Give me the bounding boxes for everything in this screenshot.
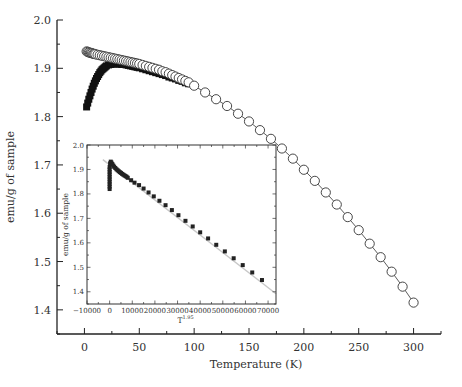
inset-point [214,243,218,247]
inset-chart: 1.41.51.61.71.81.92.0−100000100002000030… [61,142,279,326]
inset-point [142,187,146,191]
inset-x-axis-title: T1.95 [177,314,193,325]
x-tick-label: 200 [293,341,314,354]
inset-y-tick-label: 1.7 [73,215,84,223]
fc-point [244,117,253,126]
inset-x-tick-label: 60000 [234,307,256,315]
fc-point [332,200,341,209]
fc-point [310,176,319,185]
fc-point [233,109,242,118]
inset-point [250,270,254,274]
fc-point [376,253,385,262]
inset-x-tick-label: 10000 [121,307,143,315]
inset-point [232,256,236,260]
fc-point [266,134,275,143]
y-tick-label: 1.7 [34,159,52,172]
inset-x-tick-label: −10000 [73,307,101,315]
x-tick-label: 50 [132,341,146,354]
x-axis-title: Temperature (K) [210,358,302,371]
x-tick-label: 150 [239,341,260,354]
inset-x-tick-label: 70000 [257,307,279,315]
x-tick-label: 300 [403,341,424,354]
y-tick-label: 2.0 [34,14,52,27]
x-tick-label: 250 [348,341,369,354]
fc-point [222,101,231,110]
magnetization-chart: 1.41.51.61.71.81.92.0050100150200250300 … [0,0,462,387]
inset-y-tick-label: 1.6 [73,239,85,247]
y-tick-label: 1.9 [34,62,52,75]
fc-point [398,282,407,291]
fc-point [190,81,199,90]
inset-point [170,208,174,212]
fc-point [211,95,220,104]
fc-point [365,239,374,248]
y-tick-label: 1.5 [34,256,52,269]
inset-point [157,199,161,203]
inset-x-tick-label: 0 [107,307,111,315]
inset-point [223,249,227,253]
fc-point [321,188,330,197]
y-tick-label: 1.8 [34,111,52,124]
inset-point [137,183,141,187]
y-axis-title: emu/g of sample [4,131,17,223]
inset-x-tick-label: 50000 [212,307,234,315]
inset-y-tick-label: 1.4 [73,288,85,296]
inset-point [152,194,156,198]
inset-y-tick-label: 1.9 [73,166,84,174]
inset-y-tick-label: 1.5 [73,264,84,272]
inset-point [164,203,168,207]
inset-x-axis-title-exponent: 1.95 [182,314,193,320]
inset-point [183,219,187,223]
fc-point [201,88,210,97]
y-tick-label: 1.4 [34,304,52,317]
inset-point [147,190,151,194]
fc-point [277,144,286,153]
inset-point [260,278,264,282]
fc-point [409,298,418,307]
inset-point [176,213,180,217]
inset-point [133,181,137,185]
y-tick-label: 1.6 [34,207,52,220]
inset-x-tick-label: 20000 [144,307,166,315]
inset-point [198,230,202,234]
inset-point [191,224,195,228]
fc-point [387,267,396,276]
inset-y-tick-label: 2.0 [73,142,84,150]
inset-y-axis-title: emu/g of sample [61,193,70,256]
fc-point [255,126,264,135]
fc-point [354,226,363,235]
x-tick-label: 100 [184,341,205,354]
fc-point [299,165,308,174]
fc-point [288,154,297,163]
inset-y-tick-label: 1.8 [73,190,84,198]
fc-point [343,212,352,221]
x-tick-label: 0 [81,341,88,354]
inset-point [206,236,210,240]
inset-point [241,263,245,267]
